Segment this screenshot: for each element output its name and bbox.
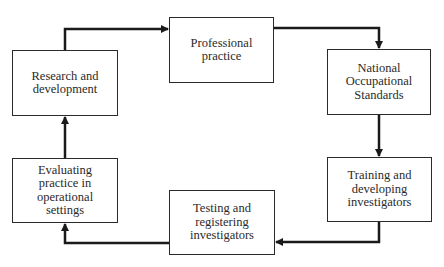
- node-professional-practice: Professional practice: [169, 17, 274, 83]
- node-national-occupational-standards: National Occupational Standards: [327, 49, 431, 115]
- node-testing-and-registering-investigators: Testing and registering investigators: [169, 190, 275, 255]
- node-label: Training and developing investigators: [342, 169, 418, 210]
- node-research-and-development: Research and development: [12, 50, 118, 116]
- arrow-training-to-testing: [276, 222, 379, 242]
- node-label: Testing and registering investigators: [184, 202, 260, 243]
- node-evaluating-practice: Evaluating practice in operational setti…: [12, 158, 118, 223]
- node-label: National Occupational Standards: [339, 62, 419, 103]
- node-label: Evaluating practice in operational setti…: [17, 164, 113, 218]
- arrow-testing-to-evaluating: [65, 224, 169, 243]
- arrow-research-to-professional: [65, 29, 168, 50]
- node-label: Professional practice: [182, 37, 262, 64]
- node-label: Research and development: [17, 70, 113, 97]
- node-training-and-developing-investigators: Training and developing investigators: [327, 157, 432, 222]
- arrow-professional-to-nos: [274, 28, 379, 48]
